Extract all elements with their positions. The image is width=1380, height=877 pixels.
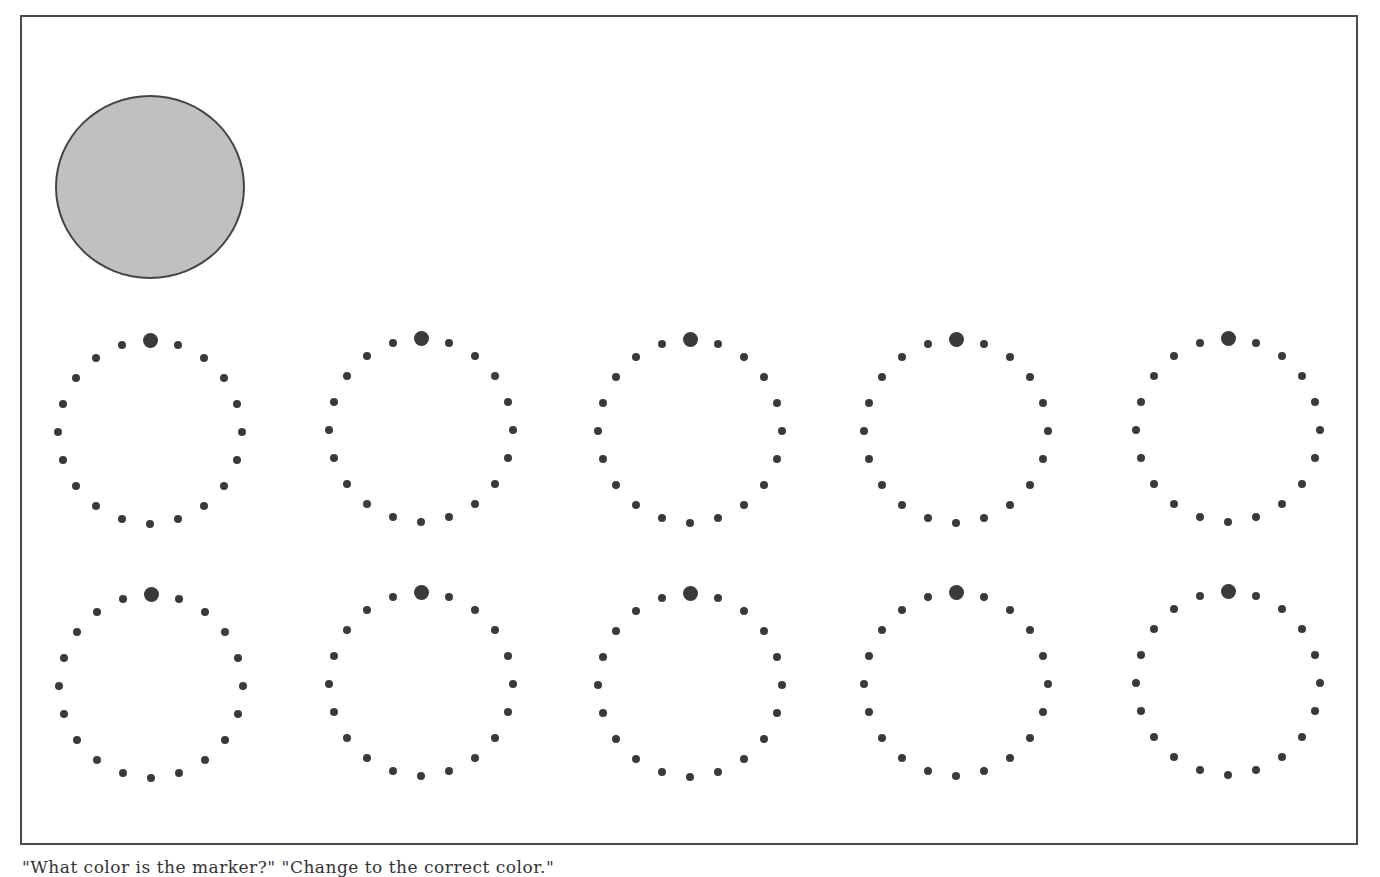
ring-dot — [509, 680, 517, 688]
marker-dot — [949, 332, 964, 347]
ring-dot — [330, 454, 338, 462]
ring-dot — [93, 608, 101, 616]
ring-dot — [343, 626, 351, 634]
ring-dot — [599, 455, 607, 463]
ring-dot — [92, 354, 100, 362]
ring-dot — [389, 593, 397, 601]
ring-dot — [924, 340, 932, 348]
ring-dot — [1137, 398, 1145, 406]
ring-dot — [980, 340, 988, 348]
ring-dot — [73, 736, 81, 744]
ring-dot — [72, 482, 80, 490]
ring-dot — [238, 428, 246, 436]
ring-dot — [1316, 426, 1324, 434]
ring-dot — [55, 682, 63, 690]
ring-dot — [778, 681, 786, 689]
ring-dot — [612, 373, 620, 381]
ring-dot — [1006, 606, 1014, 614]
ring-dot — [612, 627, 620, 635]
ring-dot — [1170, 352, 1178, 360]
ring-dot — [865, 652, 873, 660]
ring-dot — [865, 455, 873, 463]
ring-dot — [878, 373, 886, 381]
ring-dot — [594, 427, 602, 435]
ring-dot — [1137, 454, 1145, 462]
sample-marker-circle — [55, 95, 245, 279]
ring-dot — [1150, 372, 1158, 380]
ring-dot — [1278, 352, 1286, 360]
ring-dot — [599, 399, 607, 407]
ring-dot — [73, 628, 81, 636]
ring-dot — [509, 426, 517, 434]
ring-dot — [330, 652, 338, 660]
ring-dot — [54, 428, 62, 436]
ring-dot — [924, 593, 932, 601]
ring-dot — [59, 456, 67, 464]
ring-dot — [59, 400, 67, 408]
ring-dot — [1224, 771, 1232, 779]
ring-dot — [594, 681, 602, 689]
ring-dot — [612, 481, 620, 489]
marker-dot — [949, 585, 964, 600]
ring-dot — [778, 427, 786, 435]
ring-dot — [632, 353, 640, 361]
ring-dot — [471, 606, 479, 614]
marker-dot — [1221, 331, 1236, 346]
ring-dot — [343, 480, 351, 488]
ring-dot — [860, 680, 868, 688]
ring-dot — [714, 340, 722, 348]
ring-dot — [952, 772, 960, 780]
ring-dot — [1196, 339, 1204, 347]
ring-dot — [146, 520, 154, 528]
ring-dot — [471, 352, 479, 360]
ring-dot — [417, 772, 425, 780]
ring-dot — [1252, 339, 1260, 347]
ring-dot — [865, 708, 873, 716]
ring-dot — [1170, 605, 1178, 613]
marker-dot — [414, 585, 429, 600]
ring-dot — [1196, 592, 1204, 600]
ring-dot — [330, 398, 338, 406]
ring-dot — [878, 626, 886, 634]
ring-dot — [686, 773, 694, 781]
ring-dot — [952, 519, 960, 527]
marker-dot — [414, 331, 429, 346]
ring-dot — [612, 735, 620, 743]
ring-dot — [1150, 733, 1158, 741]
marker-dot — [683, 332, 698, 347]
ring-dot — [363, 352, 371, 360]
ring-dot — [1044, 427, 1052, 435]
ring-dot — [239, 682, 247, 690]
ring-dot — [686, 519, 694, 527]
ring-dot — [1150, 625, 1158, 633]
ring-dot — [1278, 605, 1286, 613]
ring-dot — [599, 653, 607, 661]
ring-dot — [119, 595, 127, 603]
ring-dot — [1137, 651, 1145, 659]
ring-dot — [1044, 680, 1052, 688]
ring-dot — [898, 606, 906, 614]
ring-dot — [175, 595, 183, 603]
marker-dot — [683, 586, 698, 601]
ring-dot — [1132, 426, 1140, 434]
ring-dot — [865, 399, 873, 407]
ring-dot — [658, 594, 666, 602]
ring-dot — [1132, 679, 1140, 687]
ring-dot — [325, 426, 333, 434]
ring-dot — [174, 341, 182, 349]
ring-dot — [60, 654, 68, 662]
ring-dot — [740, 353, 748, 361]
ring-dot — [445, 339, 453, 347]
ring-dot — [1006, 353, 1014, 361]
ring-dot — [1252, 592, 1260, 600]
ring-dot — [860, 427, 868, 435]
ring-dot — [147, 774, 155, 782]
ring-dot — [330, 708, 338, 716]
ring-dot — [1224, 518, 1232, 526]
ring-dot — [878, 734, 886, 742]
caption-text: "What color is the marker?" "Change to t… — [22, 857, 554, 877]
marker-dot — [1221, 584, 1236, 599]
ring-dot — [60, 710, 68, 718]
ring-dot — [1150, 480, 1158, 488]
marker-dot — [143, 333, 158, 348]
